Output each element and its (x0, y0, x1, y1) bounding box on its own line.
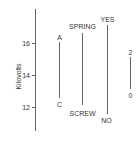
y-axis-tick-14 (32, 75, 36, 76)
y-tick-label-12: 12 (18, 104, 30, 111)
bar-yes-no-line (107, 25, 108, 114)
bar-spring-top-label: SPRING (69, 23, 96, 30)
bar-spring-screw-line (82, 33, 83, 105)
scale-bar-line (130, 57, 131, 89)
bar-a-top-label: A (57, 34, 62, 41)
diagram: 16 14 12 Kilovolts A C SPRING SCREW YES … (0, 0, 139, 141)
y-tick-label-16: 16 (18, 40, 30, 47)
scale-bar-bottom-label: 0 (129, 92, 133, 99)
bar-yes-top-label: YES (100, 16, 114, 23)
bar-screw-bottom-label: SCREW (69, 110, 95, 117)
y-axis-tick-16 (32, 43, 36, 44)
bar-c-bottom-label: C (57, 101, 62, 108)
bar-a-c-line (59, 42, 60, 98)
bar-no-bottom-label: NO (101, 117, 112, 124)
scale-bar-top-label: 2 (129, 49, 133, 56)
y-axis-tick-12 (32, 107, 36, 108)
y-axis-line (35, 9, 36, 131)
y-axis-label: Kilovolts (15, 58, 22, 96)
